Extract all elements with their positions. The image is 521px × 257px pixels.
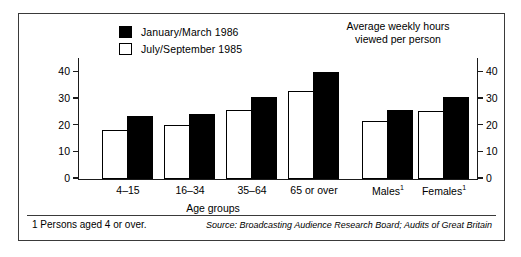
y-tick-label-right-40: 40 xyxy=(486,66,516,76)
chart-figure: January/March 1986 July/September 1985 A… xyxy=(18,13,505,241)
y-tick-right-0 xyxy=(478,177,483,178)
y-tick-left-40 xyxy=(73,71,78,72)
y-tick-label-left-10: 10 xyxy=(40,146,70,156)
source-note: Source: Broadcasting Audience Research B… xyxy=(206,220,492,230)
bar-hollow xyxy=(226,110,252,179)
x-axis-title: Age groups xyxy=(78,202,348,214)
unit-caption: Average weekly hours viewed per person xyxy=(310,20,486,46)
y-tick-right-40 xyxy=(478,71,483,72)
y-tick-label-left-40: 40 xyxy=(40,66,70,76)
category-label: 65 or over xyxy=(274,184,354,196)
unit-caption-line-2: viewed per person xyxy=(310,33,486,46)
y-tick-left-10 xyxy=(73,151,78,152)
y-tick-right-20 xyxy=(478,124,483,125)
bar-filled xyxy=(189,114,215,179)
y-tick-label-right-10: 10 xyxy=(486,146,516,156)
chart-legend: January/March 1986 July/September 1985 xyxy=(119,23,309,57)
y-tick-label-left-0: 0 xyxy=(40,173,70,183)
y-tick-left-30 xyxy=(73,97,78,98)
y-tick-label-left-20: 20 xyxy=(40,120,70,130)
bar-group xyxy=(226,59,278,179)
plot-area: 010203040 010203040 4–1516–3435–6465 or … xyxy=(78,58,478,180)
footnote: 1 Persons aged 4 or over. xyxy=(32,219,147,230)
bar-group xyxy=(418,59,470,179)
y-tick-left-0 xyxy=(73,177,78,178)
y-tick-right-10 xyxy=(478,151,483,152)
category-label: Females1 xyxy=(404,184,484,197)
y-tick-right-30 xyxy=(478,97,483,98)
bar-hollow xyxy=(362,121,388,179)
bar-hollow xyxy=(288,91,314,179)
y-tick-label-right-30: 30 xyxy=(486,93,516,103)
bar-filled xyxy=(127,116,153,179)
y-axis-left xyxy=(78,58,79,180)
x-axis xyxy=(78,179,478,180)
bar-group xyxy=(362,59,414,179)
legend-item-january-march-1986: January/March 1986 xyxy=(119,23,309,40)
bar-hollow xyxy=(164,125,190,179)
bar-group xyxy=(102,59,154,179)
bar-filled xyxy=(443,97,469,178)
y-tick-label-right-0: 0 xyxy=(486,173,516,183)
legend-item-july-september-1985: July/September 1985 xyxy=(119,40,309,57)
legend-swatch-filled-icon xyxy=(119,26,132,38)
bar-filled xyxy=(387,110,413,179)
unit-caption-line-1: Average weekly hours xyxy=(310,20,486,33)
legend-label-july-september-1985: July/September 1985 xyxy=(141,43,242,55)
footer-divider xyxy=(27,215,496,216)
y-axis-right xyxy=(477,58,478,180)
y-tick-left-20 xyxy=(73,124,78,125)
bar-hollow xyxy=(418,111,444,178)
legend-swatch-hollow-icon xyxy=(119,43,132,55)
bar-group xyxy=(164,59,216,179)
bar-group xyxy=(288,59,340,179)
legend-label-january-march-1986: January/March 1986 xyxy=(141,26,239,38)
y-tick-label-left-30: 30 xyxy=(40,93,70,103)
bar-hollow xyxy=(102,130,128,179)
bar-filled xyxy=(313,72,339,179)
bar-filled xyxy=(251,97,277,179)
y-tick-label-right-20: 20 xyxy=(486,120,516,130)
